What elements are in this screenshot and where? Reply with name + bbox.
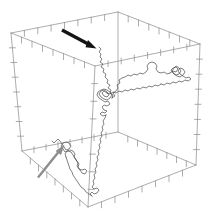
- ticks-vertical-back-left: [9, 48, 23, 136]
- black-arrow-shaft: [62, 30, 91, 46]
- ticks-top-front-left: [22, 37, 85, 68]
- chain-segment-mid-band: [107, 84, 161, 94]
- chain-loop-feature: [61, 142, 87, 174]
- black-arrow-head: [86, 40, 97, 49]
- axis-box-wireframe: [11, 12, 200, 207]
- gray-arrow-shaft: [38, 150, 61, 178]
- trajectory-plot: [0, 0, 215, 224]
- ticks-bottom-front-left: [30, 158, 80, 206]
- ticks-top-front-right: [108, 44, 187, 67]
- chain-trajectory: [52, 47, 191, 196]
- ticks-bottom-front-right: [102, 170, 183, 208]
- figure-container: [0, 0, 215, 224]
- ticks-top-back-right: [128, 16, 190, 46]
- ticks-bottom-back-left: [34, 132, 106, 152]
- ticks-bottom-back-right: [128, 136, 187, 167]
- gray-arrow: [38, 145, 65, 178]
- chain-cluster-right: [161, 66, 191, 85]
- chain-segment-descent: [90, 115, 106, 196]
- chain-segment-upper-right: [112, 62, 170, 98]
- chain-segment-lower-sweep: [66, 157, 92, 196]
- ticks-vertical-front-right: [194, 59, 203, 150]
- black-arrow: [62, 30, 97, 49]
